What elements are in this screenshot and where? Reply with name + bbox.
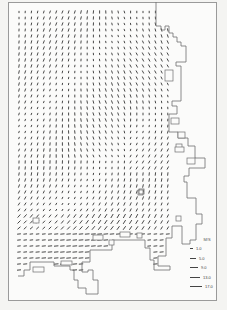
vector-arrow — [25, 149, 26, 152]
vector-arrow — [167, 167, 169, 170]
vector-arrow — [161, 131, 162, 134]
vector-arrow — [31, 155, 32, 158]
vector-arrow — [43, 113, 44, 115]
vector-arrow — [155, 203, 156, 206]
vector-arrow — [142, 47, 143, 50]
vector-arrow — [75, 41, 76, 44]
vector-arrow — [68, 209, 69, 211]
vector-arrow — [99, 179, 100, 181]
vector-arrow — [105, 88, 106, 91]
vector-arrow — [62, 16, 63, 19]
vector-arrow — [74, 10, 75, 13]
vector-arrow — [129, 220, 131, 224]
vector-arrow — [124, 94, 125, 97]
vector-arrow — [155, 65, 157, 68]
vector-arrow — [81, 28, 82, 31]
vector-arrow — [25, 143, 26, 146]
legend-entry: 17.0 — [190, 282, 220, 292]
vector-arrow — [161, 59, 163, 62]
vector-arrow — [142, 83, 143, 86]
vector-arrow — [155, 167, 157, 170]
vector-arrow — [130, 59, 132, 62]
vector-arrow — [50, 101, 51, 103]
vector-arrow — [80, 220, 83, 223]
vector-arrow — [68, 16, 69, 19]
vector-arrow — [112, 149, 113, 151]
vector-arrow — [142, 209, 143, 212]
vector-arrow — [31, 137, 32, 140]
vector-arrow — [62, 11, 63, 14]
vector-arrow — [149, 101, 150, 104]
vector-arrow — [105, 125, 106, 128]
vector-arrow — [161, 161, 163, 164]
vector-arrow — [56, 107, 57, 110]
vector-arrow — [143, 35, 144, 38]
vector-arrow — [25, 131, 26, 133]
vector-arrow — [167, 149, 168, 152]
vector-arrow — [167, 65, 169, 68]
reference-arrow-icon — [190, 258, 196, 259]
vector-arrow — [25, 64, 26, 67]
vector-arrow — [136, 196, 137, 199]
island-outline — [109, 240, 114, 245]
vector-arrow — [37, 23, 38, 26]
vector-arrow — [49, 203, 50, 205]
vector-arrow — [81, 155, 82, 158]
vector-arrow — [93, 112, 94, 115]
vector-arrow — [75, 142, 76, 145]
vector-arrow — [142, 53, 144, 56]
vector-arrow — [124, 76, 125, 79]
vector-arrow — [75, 179, 76, 182]
vector-arrow — [56, 53, 57, 56]
vector-arrow — [105, 65, 106, 68]
vector-arrow — [73, 226, 76, 229]
vector-arrow — [43, 46, 44, 49]
vector-arrow — [87, 124, 88, 127]
vector-arrow — [37, 172, 38, 175]
vector-arrow — [155, 143, 156, 146]
vector-arrow — [50, 95, 51, 97]
vector-arrow — [98, 226, 101, 230]
vector-arrow — [43, 34, 44, 37]
vector-arrow — [18, 214, 21, 217]
vector-arrow — [155, 89, 156, 92]
vector-arrow — [99, 149, 100, 152]
vector-arrow — [111, 220, 114, 224]
legend-label: 1.0 — [196, 246, 202, 251]
vector-arrow — [50, 113, 51, 116]
vector-arrow — [112, 191, 113, 194]
vector-arrow — [155, 101, 156, 104]
vector-arrow — [143, 137, 144, 139]
vector-arrow — [86, 209, 88, 212]
vector-arrow — [137, 101, 138, 104]
vector-arrow — [30, 227, 33, 229]
vector-arrow — [136, 95, 137, 98]
vector-arrow — [87, 100, 88, 103]
vector-arrow — [118, 71, 119, 74]
vector-arrow — [142, 155, 143, 158]
vector-arrow — [37, 40, 38, 43]
island-outline — [176, 216, 181, 221]
vector-arrow — [62, 22, 63, 25]
vector-arrow — [112, 131, 113, 134]
vector-arrow — [124, 131, 125, 134]
vector-arrow — [118, 119, 119, 122]
vector-arrow — [31, 95, 32, 98]
vector-arrow — [25, 70, 26, 73]
vector-arrow — [112, 185, 113, 188]
vector-arrow — [56, 179, 57, 182]
vector-arrow — [62, 77, 63, 79]
vector-arrow — [130, 94, 131, 97]
vector-arrow — [148, 53, 150, 56]
vector-arrow — [50, 65, 51, 68]
vector-arrow — [155, 137, 156, 140]
vector-arrow — [62, 209, 63, 211]
vector-arrow — [74, 22, 75, 25]
vector-arrow — [37, 11, 38, 14]
vector-arrow — [123, 226, 126, 230]
vector-arrow — [43, 125, 44, 128]
vector-arrow — [93, 179, 94, 181]
vector-arrow — [56, 209, 57, 211]
vector-arrow — [86, 226, 89, 229]
vector-arrow — [124, 17, 125, 19]
